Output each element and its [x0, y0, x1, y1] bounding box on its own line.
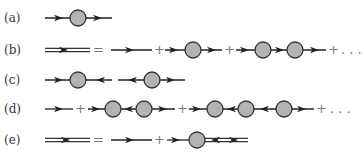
self-energy-blob [287, 42, 303, 58]
self-energy-blob [238, 101, 254, 117]
self-energy-blob [207, 101, 223, 117]
plus-sign: + [154, 42, 165, 57]
plus-sign: + [154, 132, 165, 147]
self-energy-blob [185, 42, 201, 58]
row-label-b: (b) [4, 43, 21, 57]
row-label-c: (c) [4, 73, 20, 87]
self-energy-blob [70, 72, 86, 88]
ellipsis: . . . [330, 101, 351, 116]
self-energy-blob [189, 132, 205, 148]
row-label-e: (e) [4, 133, 20, 147]
ellipsis: . . . [341, 42, 362, 57]
row-a: (a) [4, 10, 112, 26]
plus-sign: + [316, 101, 327, 116]
row-c: (c) [4, 72, 185, 88]
self-energy-blob [144, 72, 160, 88]
row-b: (b) = + + + . . . [4, 42, 362, 58]
plus-sign: + [328, 42, 339, 57]
feynman-diagram-figure: (a) (b) = + + + . . . (c) [0, 0, 364, 155]
self-energy-blob [70, 10, 86, 26]
self-energy-blob [105, 101, 121, 117]
self-energy-blob [276, 101, 292, 117]
row-label-a: (a) [4, 11, 21, 25]
plus-sign: + [177, 101, 188, 116]
row-d: (d) + + + . . . [4, 101, 351, 117]
plus-sign: + [75, 101, 86, 116]
plus-sign: + [224, 42, 235, 57]
row-label-d: (d) [4, 102, 21, 116]
self-energy-blob [136, 101, 152, 117]
row-e: (e) = + [4, 132, 248, 148]
equals-sign: = [93, 42, 104, 57]
self-energy-blob [255, 42, 271, 58]
equals-sign: = [93, 132, 104, 147]
